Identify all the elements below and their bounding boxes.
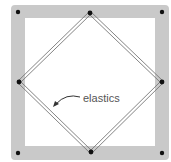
pin-top [88,11,93,16]
pins [16,10,165,155]
pin-left [17,80,22,85]
pin-bottom [89,150,94,155]
elastic-band [17,11,164,154]
elastic-frame-diagram: elastics [0,0,171,162]
pin-top-right [160,10,164,14]
elastics-label: elastics [83,92,120,104]
arrow-icon [56,96,80,104]
frame [11,5,169,160]
pin-bottom-right [160,151,164,155]
pin-top-left [16,10,20,14]
pin-bottom-left [16,151,20,155]
pin-right [160,80,165,85]
